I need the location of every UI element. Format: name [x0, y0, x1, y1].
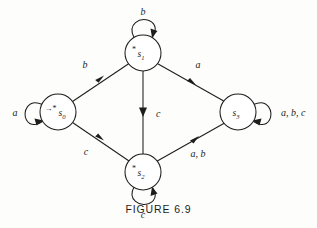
edge-label-s0-s2: c	[84, 146, 89, 157]
edge-s0-s1: b	[73, 59, 131, 102]
state-node-s1[interactable]: * s1	[125, 35, 161, 71]
self-loop-s3: a, b, c	[253, 103, 307, 126]
figure-caption: FIGURE 6.9	[0, 203, 317, 215]
state-marker-s2: *	[132, 164, 136, 173]
state-node-s0[interactable]: →* s0	[40, 94, 76, 130]
edge-s0-s2: c	[73, 123, 131, 163]
edge-s1-s3: a	[156, 59, 226, 102]
edge-s0-s2-line	[73, 123, 131, 163]
state-marker-s0: →*	[45, 104, 57, 113]
edge-label-s1-s2: c	[156, 108, 161, 119]
edge-label-s0-s1: b	[83, 59, 88, 70]
self-loop-s1-arrowhead	[151, 29, 158, 38]
edge-label-s2-s3: a, b	[191, 148, 206, 159]
edge-s1-s2-arrowhead	[139, 108, 147, 118]
edge-label-s3-self: a, b, c	[281, 107, 306, 118]
self-loop-s1: b	[132, 6, 157, 38]
state-node-s2[interactable]: * s2	[125, 154, 161, 190]
edge-s2-s3: a, b	[156, 123, 226, 163]
edge-s1-s3-arrowhead	[187, 78, 196, 85]
state-label-s3-sub: 3	[235, 113, 240, 120]
edge-label-s0-self: a	[13, 107, 18, 118]
automaton-diagram: b c c a a, b a	[0, 0, 317, 228]
state-marker-s1: *	[132, 45, 136, 54]
edge-label-s1-s3: a	[196, 59, 201, 70]
edge-s2-s3-arrowhead	[190, 136, 199, 144]
self-loop-s0: a	[13, 103, 44, 126]
edge-s1-s2: c	[139, 71, 161, 154]
state-label-s1-sub: 1	[141, 54, 144, 61]
figure-container: b c c a a, b a	[0, 0, 317, 228]
state-node-s3[interactable]: s3	[220, 94, 256, 130]
edge-s0-s1-line	[73, 63, 131, 102]
edge-label-s1-self: b	[141, 6, 146, 17]
